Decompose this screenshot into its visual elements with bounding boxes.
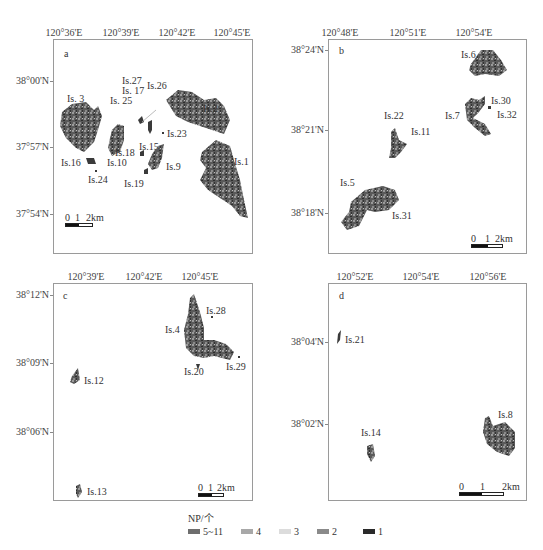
island-label: Is.6 <box>461 49 476 60</box>
island-label: Is.19 <box>124 178 144 189</box>
island-label: Is.9 <box>166 161 181 172</box>
island-28 <box>211 316 213 318</box>
y-tick: 37°57'N <box>16 141 53 152</box>
y-tick: 37°54'N <box>16 208 53 219</box>
island-label: Is.29 <box>226 361 246 372</box>
island-label: Is.16 <box>61 157 81 168</box>
island-24 <box>95 170 97 172</box>
island-label: Is.13 <box>87 486 107 497</box>
legend-item: 4 <box>241 526 261 537</box>
island-5 <box>341 186 399 230</box>
island-label: Is.22 <box>384 110 404 121</box>
map-panel-c: c Is.4 Is.28 Is.20 Is.29 Is.12 Is.13 0 1… <box>53 283 253 501</box>
y-tick: 38°21'N <box>291 124 328 135</box>
x-tick: 120°45'E <box>214 27 251 38</box>
island-15 <box>148 120 152 134</box>
island-label: Is.8 <box>498 409 513 420</box>
legend-swatch <box>279 529 291 534</box>
island-16 <box>86 158 96 164</box>
island-label: Is.18 <box>115 147 135 158</box>
island-label: Is.12 <box>84 375 104 386</box>
island-label: Is. 3 <box>67 93 84 104</box>
island-30 <box>488 106 491 109</box>
island-3 <box>60 102 102 152</box>
legend-swatch <box>363 529 375 534</box>
x-tick: 120°56'E <box>470 271 507 282</box>
x-tick: 120°45'E <box>182 271 219 282</box>
legend-swatch <box>241 529 253 534</box>
map-panel-a: a Is. 3 Is.10 Is.27 Is. 17 Is. 25 Is.26 … <box>53 39 253 254</box>
island-label: Is.15 <box>139 141 159 152</box>
island-label: Is.30 <box>491 95 511 106</box>
legend-swatch <box>317 529 329 534</box>
x-tick: 120°39'E <box>68 271 105 282</box>
map-panel-b: b Is.6 Is.30 Is.7 Is.32 Is.22 Is.11 Is.5… <box>328 39 527 254</box>
island-label: Is.5 <box>340 177 355 188</box>
island-label: Is.20 <box>184 366 204 377</box>
x-tick: 120°54'E <box>403 271 440 282</box>
island-label: Is.2 <box>203 103 218 114</box>
islands-map-b <box>329 40 528 255</box>
island-label: Is.28 <box>206 305 226 316</box>
island-label: Is.24 <box>88 174 108 185</box>
legend-item: 3 <box>279 526 299 537</box>
island-label: Is.26 <box>147 80 167 91</box>
islands-map-c <box>54 284 254 502</box>
island-4 <box>184 294 234 360</box>
scale-bar: 0 1 2km <box>459 481 504 496</box>
legend-item: 1 <box>363 526 383 537</box>
y-tick: 38°09'N <box>16 357 53 368</box>
island-label: Is.21 <box>345 334 365 345</box>
island-1 <box>200 140 248 218</box>
island-label: Is.10 <box>107 157 127 168</box>
x-tick: 120°48'E <box>322 27 359 38</box>
island-29 <box>238 356 240 358</box>
island-label: Is.1 <box>234 156 249 167</box>
scale-bar: 0 1 2km <box>198 482 224 497</box>
y-tick: 38°12'N <box>16 289 53 300</box>
x-tick: 120°51'E <box>390 27 427 38</box>
islands-map-d <box>329 284 528 502</box>
x-tick: 120°36'E <box>46 27 83 38</box>
island-label: Is.32 <box>497 109 517 120</box>
y-tick: 38°04'N <box>291 336 328 347</box>
y-tick: 38°02'N <box>291 418 328 429</box>
island-23 <box>162 132 164 134</box>
island-8 <box>483 416 515 456</box>
island-label: Is.31 <box>392 210 412 221</box>
legend: NP/个 5~11 4 3 2 1 <box>188 510 383 537</box>
legend-title: NP/个 <box>188 510 383 525</box>
island-12 <box>70 368 80 384</box>
island-14 <box>367 444 375 462</box>
island-label: Is.14 <box>361 427 381 438</box>
x-tick: 120°39'E <box>103 27 140 38</box>
legend-item: 5~11 <box>188 526 223 537</box>
island-label: Is. 25 <box>110 95 132 106</box>
y-tick: 38°00'N <box>16 75 53 86</box>
island-label: Is.23 <box>167 128 187 139</box>
island-label: Is.7 <box>445 110 460 121</box>
island-label: Is.11 <box>411 126 430 137</box>
legend-swatch <box>188 529 200 534</box>
x-tick: 120°42'E <box>126 271 163 282</box>
x-tick: 120°52'E <box>337 271 374 282</box>
island-17 <box>138 116 144 124</box>
y-tick: 38°18'N <box>291 207 328 218</box>
scale-bar: 0 1 2km <box>65 212 93 227</box>
y-tick: 38°06'N <box>16 426 53 437</box>
x-tick: 120°54'E <box>456 27 493 38</box>
legend-item: 2 <box>317 526 337 537</box>
x-tick: 120°42'E <box>159 27 196 38</box>
island-21 <box>337 330 341 344</box>
map-panel-d: d Is.21 Is.14 Is.8 0 1 2km <box>328 283 527 501</box>
scale-bar: 0 1 2km <box>471 233 503 248</box>
island-13 <box>76 484 82 498</box>
y-tick: 38°24'N <box>291 44 328 55</box>
island-11 <box>389 128 407 158</box>
island-7 <box>465 96 491 136</box>
island-19 <box>144 168 148 174</box>
island-label: Is.4 <box>165 324 180 335</box>
